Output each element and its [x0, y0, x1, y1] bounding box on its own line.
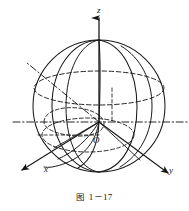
- figure-caption-number: 1－17: [89, 192, 113, 202]
- polar-ray-axis: [27, 63, 99, 122]
- z-axis-label: z: [97, 6, 101, 15]
- figure-container: z x y O 图1－17: [0, 0, 189, 211]
- y-axis-line: [99, 122, 168, 173]
- x-axis-label: x: [44, 165, 48, 174]
- sphere-diagram-svg: [0, 0, 189, 189]
- y-axis-label: y: [169, 166, 173, 175]
- x-axis-line: [22, 122, 99, 170]
- origin-label: O: [93, 136, 100, 145]
- radius-segment-b: [99, 122, 140, 160]
- figure-caption: 图1－17: [0, 190, 189, 203]
- figure-caption-cjk: 图: [76, 192, 85, 202]
- meridian-front-lower: [44, 122, 99, 167]
